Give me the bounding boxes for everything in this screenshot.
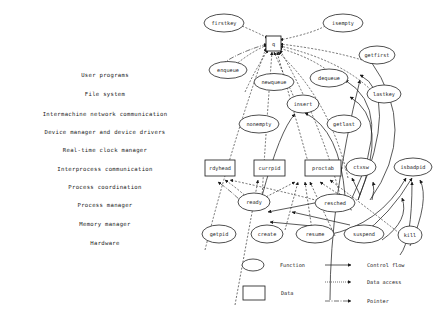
- node-insert: insert: [287, 95, 319, 113]
- node-nonempty: nonempty: [239, 115, 279, 133]
- node-resume: resume: [296, 225, 334, 243]
- process-manager-diagram: q firstkey isempty enqueue newqueue getf…: [0, 0, 443, 320]
- node-q: q: [266, 36, 281, 51]
- svg-text:ctxsw: ctxsw: [353, 164, 369, 170]
- legend-data-access-label: Data access: [367, 279, 401, 285]
- svg-text:currpid: currpid: [259, 165, 281, 172]
- node-firstkey: firstkey: [204, 14, 244, 32]
- svg-text:newqueue: newqueue: [262, 79, 287, 86]
- node-dequeue: dequeue: [310, 69, 348, 87]
- node-create: create: [251, 225, 283, 243]
- svg-text:rdyhead: rdyhead: [209, 165, 231, 172]
- legend-data-label: Data: [281, 290, 294, 296]
- legend-control-flow-label: Control flow: [367, 262, 405, 268]
- node-lastkey: lastkey: [367, 85, 401, 103]
- svg-text:insert: insert: [294, 101, 313, 107]
- svg-text:dequeue: dequeue: [318, 75, 340, 82]
- svg-text:firstkey: firstkey: [212, 20, 237, 27]
- svg-text:enqueue: enqueue: [217, 67, 239, 74]
- svg-text:isempty: isempty: [332, 20, 354, 27]
- svg-text:ready: ready: [246, 199, 262, 206]
- node-isempty: isempty: [323, 14, 363, 32]
- node-newqueue: newqueue: [254, 74, 294, 91]
- node-kill: kill: [398, 226, 422, 244]
- node-currpid: currpid: [254, 160, 285, 176]
- node-suspend: suspend: [344, 225, 384, 243]
- svg-text:getfirst: getfirst: [365, 52, 390, 59]
- node-getlast: getlast: [327, 115, 361, 133]
- legend-data-symbol: [243, 286, 265, 300]
- svg-text:isbadpid: isbadpid: [401, 164, 426, 171]
- legend-pointer-label: Pointer: [367, 298, 389, 304]
- svg-text:lastkey: lastkey: [373, 91, 395, 98]
- legend-function-label: Function: [280, 262, 305, 268]
- svg-text:create: create: [258, 231, 277, 237]
- node-isbadpid: isbadpid: [394, 158, 432, 176]
- svg-text:nonempty: nonempty: [247, 121, 272, 128]
- node-rdyhead: rdyhead: [205, 160, 235, 176]
- svg-text:proctab: proctab: [312, 165, 334, 172]
- node-enqueue: enqueue: [209, 62, 247, 79]
- svg-text:resume: resume: [306, 231, 325, 237]
- svg-text:suspend: suspend: [353, 231, 375, 238]
- svg-text:getpid: getpid: [210, 231, 229, 238]
- svg-text:kill: kill: [404, 232, 417, 238]
- legend: Function Data Control flow Data access P…: [242, 259, 405, 304]
- node-getpid: getpid: [202, 225, 236, 243]
- node-ready: ready: [238, 193, 270, 211]
- svg-text:getlast: getlast: [333, 121, 355, 128]
- legend-function-symbol: [242, 259, 264, 271]
- node-resched: resched: [315, 194, 355, 212]
- node-ctxsw: ctxsw: [346, 158, 376, 176]
- node-getfirst: getfirst: [359, 46, 395, 64]
- svg-text:resched: resched: [324, 200, 346, 206]
- svg-text:q: q: [272, 41, 275, 48]
- node-proctab: proctab: [305, 160, 341, 176]
